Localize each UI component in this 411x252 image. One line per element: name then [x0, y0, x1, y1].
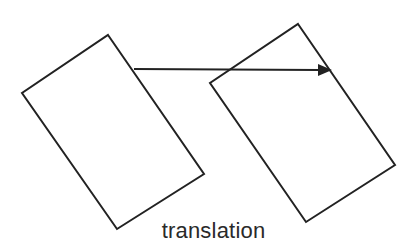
- translation-diagram: [0, 0, 411, 252]
- diagram-caption: translation: [0, 218, 411, 244]
- translated-rectangle: [210, 24, 395, 222]
- translation-arrow-shaft: [134, 69, 320, 70]
- arrowhead-icon: [318, 64, 332, 76]
- original-rectangle: [22, 35, 204, 229]
